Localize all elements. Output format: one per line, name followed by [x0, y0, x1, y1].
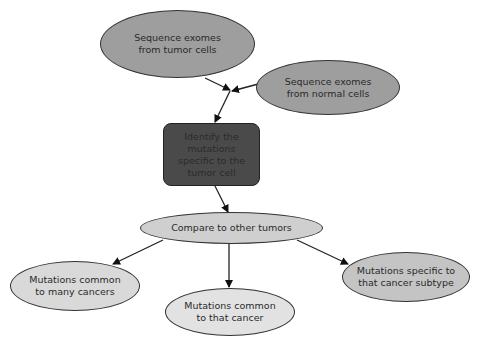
node-sequence-tumor: Sequence exomes from tumor cells	[100, 10, 255, 78]
node-specific-subtype: Mutations specific to that cancer subtyp…	[342, 252, 470, 302]
node-common-many: Mutations common to many cancers	[10, 261, 140, 311]
node-label: Mutations common to many cancers	[28, 274, 123, 298]
node-label: Sequence exomes from tumor cells	[128, 32, 228, 56]
node-compare-tumors: Compare to other tumors	[140, 212, 323, 244]
node-sequence-normal: Sequence exomes from normal cells	[256, 60, 400, 115]
node-label: Mutations common to that cancer	[183, 300, 278, 324]
node-label: Compare to other tumors	[171, 222, 292, 234]
node-label: Mutations specific to that cancer subtyp…	[351, 265, 461, 289]
node-label: Sequence exomes from normal cells	[278, 76, 378, 100]
node-label: Identify the mutations specific to the t…	[172, 131, 252, 179]
node-identify-mutations: Identify the mutations specific to the t…	[163, 123, 260, 186]
node-common-that: Mutations common to that cancer	[165, 288, 295, 336]
